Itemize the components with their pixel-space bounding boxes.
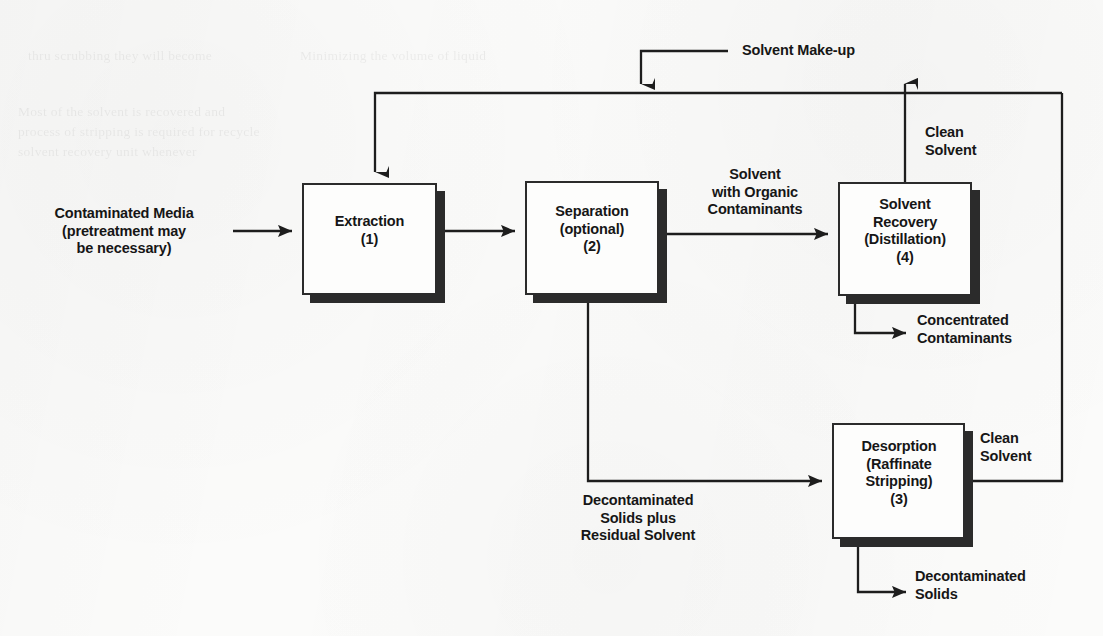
connector-concentrated-contaminants: [855, 299, 906, 333]
concentrated-contaminants-label: Concentrated Contaminants: [917, 312, 1097, 347]
feed-stream-label: Contaminated Media (pretreatment may be …: [16, 205, 232, 258]
decontaminated-solids-label: Decontaminated Solids: [915, 568, 1100, 603]
separation-box[interactable]: [525, 181, 659, 295]
solvent-with-organics-label: Solvent with Organic Contaminants: [672, 166, 838, 219]
clean-solvent-top-label: Clean Solvent: [925, 124, 1045, 159]
desorption-box[interactable]: [832, 423, 965, 539]
connector-decontaminated-solids: [858, 542, 906, 592]
solvent-recovery-box[interactable]: [838, 182, 972, 296]
decontaminated-solids-plus-solvent-label: Decontaminated Solids plus Residual Solv…: [530, 492, 746, 545]
extraction-box[interactable]: [302, 183, 437, 295]
clean-solvent-bottom-label: Clean Solvent: [980, 430, 1090, 465]
connector-solvent-makeup: [641, 51, 728, 84]
solvent-makeup-label: Solvent Make-up: [742, 42, 962, 60]
connector-separation-to-desorption: [588, 301, 822, 481]
process-flow-diagram-page: thru scrubbing they will become Minimizi…: [0, 0, 1103, 636]
